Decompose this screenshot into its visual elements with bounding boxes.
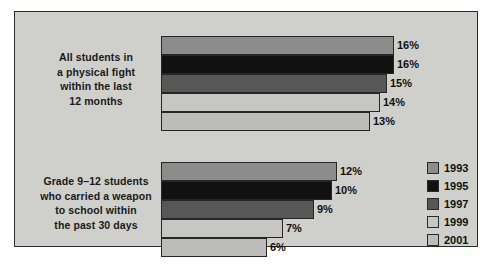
category-label-line: a physical fight	[25, 65, 167, 80]
category-label-all-students-fight: All students in a physical fight within …	[25, 50, 167, 108]
bar-row: 15%	[161, 74, 419, 93]
bar-1997[interactable]	[161, 200, 314, 219]
bar-value-label: 16%	[397, 40, 419, 51]
category-label-line: 12 months	[25, 94, 167, 109]
legend-swatch-icon	[427, 216, 439, 228]
legend-item-1997[interactable]: 1997	[427, 195, 468, 213]
bar-value-label: 15%	[390, 78, 412, 89]
bar-2001[interactable]	[161, 112, 370, 131]
legend: 1993 1995 1997 1999 2001	[427, 159, 468, 249]
bar-value-label: 13%	[373, 116, 395, 127]
category-label-line: the past 30 days	[25, 218, 167, 233]
legend-swatch-icon	[427, 198, 439, 210]
chart-panel: All students in a physical fight within …	[14, 11, 478, 247]
bar-value-label: 6%	[270, 242, 286, 253]
bar-row: 13%	[161, 112, 419, 131]
bar-1999[interactable]	[161, 219, 283, 238]
category-label-line: All students in	[25, 50, 167, 65]
bar-group-weapon: 12% 10% 9% 7% 6%	[161, 162, 362, 257]
category-label-weapon-at-school: Grade 9–12 students who carried a weapon…	[25, 174, 167, 232]
legend-swatch-icon	[427, 162, 439, 174]
legend-label: 1999	[444, 217, 468, 228]
category-label-line: Grade 9–12 students	[25, 174, 167, 189]
bar-value-label: 10%	[335, 185, 357, 196]
bar-value-label: 12%	[340, 166, 362, 177]
category-label-line: within the last	[25, 79, 167, 94]
bar-1993[interactable]	[161, 162, 337, 181]
legend-label: 1997	[444, 199, 468, 210]
bar-row: 12%	[161, 162, 362, 181]
legend-item-1999[interactable]: 1999	[427, 213, 468, 231]
category-label-line: to school within	[25, 203, 167, 218]
legend-label: 1995	[444, 181, 468, 192]
bar-row: 6%	[161, 238, 362, 257]
bar-group-fight: 16% 16% 15% 14% 13%	[161, 36, 419, 131]
bar-row: 14%	[161, 93, 419, 112]
legend-label: 2001	[444, 235, 468, 246]
legend-item-1993[interactable]: 1993	[427, 159, 468, 177]
bar-row: 10%	[161, 181, 362, 200]
bar-1993[interactable]	[161, 36, 394, 55]
bar-row: 9%	[161, 200, 362, 219]
legend-swatch-icon	[427, 180, 439, 192]
bar-1995[interactable]	[161, 181, 332, 200]
legend-item-2001[interactable]: 2001	[427, 231, 468, 249]
bar-value-label: 9%	[317, 204, 333, 215]
chart-screenshot: All students in a physical fight within …	[0, 0, 492, 269]
legend-swatch-icon	[427, 234, 439, 246]
legend-label: 1993	[444, 163, 468, 174]
bar-1995[interactable]	[161, 55, 394, 74]
bar-row: 16%	[161, 55, 419, 74]
category-label-line: who carried a weapon	[25, 189, 167, 204]
bar-1997[interactable]	[161, 74, 387, 93]
bar-2001[interactable]	[161, 238, 267, 257]
bar-row: 7%	[161, 219, 362, 238]
bar-value-label: 16%	[397, 59, 419, 70]
bar-value-label: 7%	[286, 223, 302, 234]
bar-1999[interactable]	[161, 93, 380, 112]
bar-value-label: 14%	[383, 97, 405, 108]
bar-row: 16%	[161, 36, 419, 55]
legend-item-1995[interactable]: 1995	[427, 177, 468, 195]
